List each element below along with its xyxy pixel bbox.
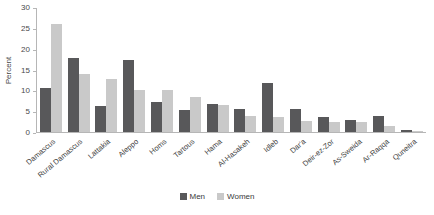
y-axis-tick-mark xyxy=(33,112,36,113)
bar-group xyxy=(370,8,398,132)
bar-women xyxy=(218,105,229,132)
x-axis-label-cell: Aleppo xyxy=(121,136,149,186)
bar-group xyxy=(204,8,232,132)
y-axis-tick-mark xyxy=(33,71,36,72)
x-axis-label-cell: Al-Hasakeh xyxy=(232,136,260,186)
y-axis-tick-label: 25 xyxy=(4,25,30,33)
bar-men xyxy=(234,109,245,132)
bar-men xyxy=(318,117,329,132)
y-axis-tick-label: 0 xyxy=(4,129,30,137)
bar-women xyxy=(79,74,90,132)
x-axis-labels: DamascusRural DamascusLattakiaAleppoHoms… xyxy=(37,136,427,186)
bar-women xyxy=(106,79,117,132)
x-axis-label: Dar'a xyxy=(288,137,307,155)
legend-swatch xyxy=(217,193,224,200)
legend-item[interactable]: Women xyxy=(217,192,254,201)
legend-item[interactable]: Men xyxy=(180,192,206,201)
bar-men xyxy=(40,88,51,132)
y-axis-tick-mark xyxy=(33,91,36,92)
x-axis-label-cell: Tartous xyxy=(176,136,204,186)
bar-group xyxy=(259,8,287,132)
bar-men xyxy=(345,120,356,132)
bar-women xyxy=(301,121,312,132)
bar-women xyxy=(329,122,340,132)
y-axis-tick-mark xyxy=(33,8,36,9)
y-axis-tick-mark xyxy=(33,133,36,134)
x-axis-label-cell: Quneitra xyxy=(399,136,427,186)
x-axis-label-cell: Idleb xyxy=(260,136,288,186)
bar-women xyxy=(356,122,367,132)
bar-group xyxy=(148,8,176,132)
y-axis-tick-label: 30 xyxy=(4,4,30,12)
x-axis-label-cell: Lattakia xyxy=(93,136,121,186)
bar-women xyxy=(245,116,256,132)
y-axis-tick-label: 10 xyxy=(4,87,30,95)
y-axis-tick-mark xyxy=(33,29,36,30)
legend-label: Women xyxy=(227,192,254,201)
bar-men xyxy=(290,109,301,132)
bar-men xyxy=(123,60,134,132)
bar-women xyxy=(412,131,423,132)
chart-legend: MenWomen xyxy=(0,192,434,201)
x-axis-label: Hama xyxy=(203,137,224,157)
bar-men xyxy=(179,110,190,132)
bar-women xyxy=(190,97,201,132)
bar-men xyxy=(68,58,79,132)
bar-group xyxy=(176,8,204,132)
bar-group xyxy=(315,8,343,132)
bar-women xyxy=(162,90,173,132)
bar-men xyxy=(95,106,106,132)
legend-swatch xyxy=(180,193,187,200)
bar-men xyxy=(401,130,412,132)
legend-label: Men xyxy=(190,192,206,201)
bar-chart: Percent 051015202530 DamascusRural Damas… xyxy=(0,0,434,215)
x-axis-label: Homs xyxy=(147,137,168,156)
y-axis-tick-label: 20 xyxy=(4,46,30,54)
x-axis-label: Idleb xyxy=(261,137,279,154)
x-axis-label: Aleppo xyxy=(117,137,141,159)
bar-men xyxy=(373,116,384,132)
bar-group xyxy=(343,8,371,132)
bar-women xyxy=(273,117,284,132)
bar-men xyxy=(151,102,162,132)
y-axis-tick-mark xyxy=(33,50,36,51)
bar-women xyxy=(51,24,62,132)
bar-group xyxy=(398,8,426,132)
bar-women xyxy=(384,126,395,132)
bar-group xyxy=(231,8,259,132)
bar-group xyxy=(93,8,121,132)
bar-group xyxy=(65,8,93,132)
x-axis-label-cell: Rural Damascus xyxy=(65,136,93,186)
x-axis-label-cell: Homs xyxy=(148,136,176,186)
bar-men xyxy=(262,83,273,132)
bar-group xyxy=(120,8,148,132)
bar-group xyxy=(37,8,65,132)
bar-groups xyxy=(37,8,426,132)
y-axis-tick-label: 5 xyxy=(4,108,30,116)
y-axis-tick-label: 15 xyxy=(4,67,30,75)
bar-women xyxy=(134,90,145,132)
x-axis-line xyxy=(36,132,426,133)
plot-area: 051015202530 xyxy=(36,8,426,133)
bar-men xyxy=(207,104,218,132)
bar-group xyxy=(287,8,315,132)
